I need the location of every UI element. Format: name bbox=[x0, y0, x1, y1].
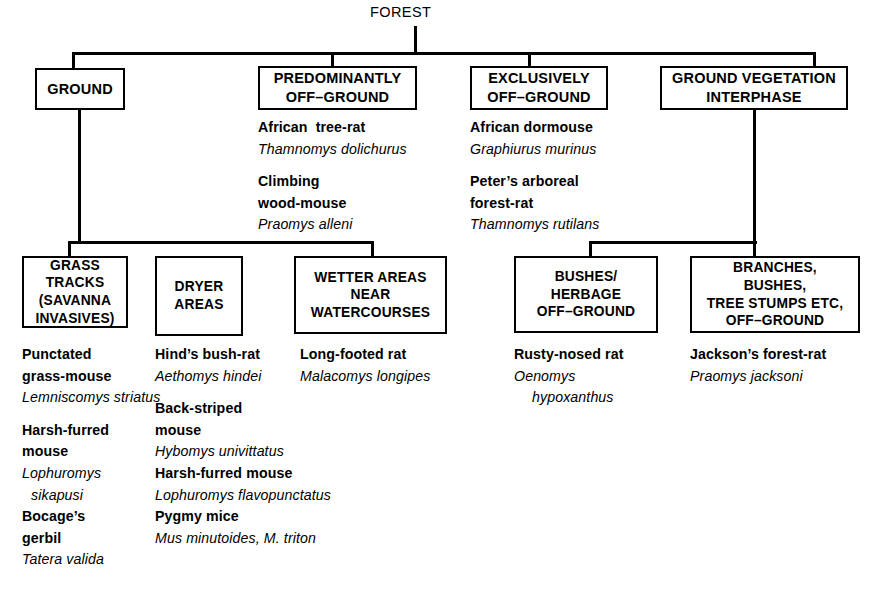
species-scientific-name: sikapusi bbox=[22, 487, 83, 503]
species-line: Jackson’s forest-rat bbox=[690, 344, 826, 366]
node-ground-label: GROUND bbox=[47, 80, 113, 99]
species-line: Punctated bbox=[22, 344, 160, 366]
species-common-name: Punctated bbox=[22, 346, 91, 362]
node-dryer-areas[interactable]: DRYER AREAS bbox=[155, 256, 243, 336]
connector-level1-drop-predominantly bbox=[331, 52, 334, 67]
species-line: Praomys alleni bbox=[258, 214, 407, 236]
species-list-exclusively-off-ground: African dormouseGraphiurus murinusPeter’… bbox=[470, 117, 600, 236]
species-scientific-name: Lophuromys flavopunctatus bbox=[155, 487, 331, 503]
species-common-name: forest-rat bbox=[470, 195, 533, 211]
species-common-name: Climbing bbox=[258, 173, 320, 189]
species-common-name: Bocage’s bbox=[22, 508, 85, 524]
species-line: Malacomys longipes bbox=[300, 366, 430, 388]
species-common-name: African tree-rat bbox=[258, 119, 365, 135]
node-wetter-areas[interactable]: WETTER AREAS NEAR WATERCOURSES bbox=[294, 256, 447, 334]
node-ground[interactable]: GROUND bbox=[35, 68, 125, 110]
species-list-spacer bbox=[155, 387, 331, 398]
node-predominantly-off-ground[interactable]: PREDOMINANTLY OFF–GROUND bbox=[258, 66, 417, 110]
species-list-branches-bushes: Jackson’s forest-ratPraomys jacksoni bbox=[690, 344, 826, 387]
species-line: Lemniscomys striatus bbox=[22, 387, 160, 409]
species-scientific-name: Lemniscomys striatus bbox=[22, 389, 160, 405]
species-common-name: Pygmy mice bbox=[155, 508, 239, 524]
species-line: Pygmy mice bbox=[155, 506, 331, 528]
species-line: wood-mouse bbox=[258, 193, 407, 215]
species-common-name: Back-striped bbox=[155, 400, 242, 416]
species-line: sikapusi bbox=[22, 485, 160, 507]
species-line: mouse bbox=[22, 441, 160, 463]
connector-interphase-drop-bushes-herbage bbox=[589, 241, 592, 257]
node-branches-bushes[interactable]: BRANCHES, BUSHES, TREE STUMPS ETC, OFF–G… bbox=[690, 256, 860, 333]
species-common-name: grass-mouse bbox=[22, 368, 111, 384]
species-common-name: wood-mouse bbox=[258, 195, 347, 211]
node-exclusively-off-ground-label: EXCLUSIVELY OFF–GROUND bbox=[487, 69, 591, 106]
species-line: Lophuromys bbox=[22, 463, 160, 485]
species-line: Climbing bbox=[258, 171, 407, 193]
node-grass-tracks-label: GRASS TRACKS (SAVANNA INVASIVES) bbox=[35, 257, 114, 328]
species-scientific-name: Thamnomys dolichurus bbox=[258, 141, 407, 157]
species-line: hypoxanthus bbox=[514, 387, 624, 409]
node-exclusively-off-ground[interactable]: EXCLUSIVELY OFF–GROUND bbox=[470, 66, 608, 110]
connector-ground-bus bbox=[68, 241, 374, 244]
species-scientific-name: hypoxanthus bbox=[514, 389, 614, 405]
species-scientific-name: Thamnomys rutilans bbox=[470, 216, 600, 232]
species-scientific-name: Graphiurus murinus bbox=[470, 141, 596, 157]
species-scientific-name: Aethomys hindei bbox=[155, 368, 261, 384]
diagram-canvas: FOREST GROUND PREDOMINANTLY OFF–GROUND E… bbox=[0, 0, 874, 596]
species-list-spacer bbox=[22, 409, 160, 420]
species-common-name: Hind’s bush-rat bbox=[155, 346, 260, 362]
species-list-spacer bbox=[258, 160, 407, 171]
species-list-spacer bbox=[470, 160, 600, 171]
species-line: Rusty-nosed rat bbox=[514, 344, 624, 366]
root-label-forest: FOREST bbox=[370, 4, 431, 20]
species-line: Thamnomys rutilans bbox=[470, 214, 600, 236]
species-scientific-name: Mus minutoides, M. triton bbox=[155, 530, 316, 546]
species-common-name: Jackson’s forest-rat bbox=[690, 346, 826, 362]
connector-level1-drop-exclusively bbox=[528, 52, 531, 67]
species-list-bushes-herbage: Rusty-nosed ratOenomyshypoxanthus bbox=[514, 344, 624, 409]
connector-ground-drop-wetter-areas bbox=[371, 241, 374, 257]
species-line: African dormouse bbox=[470, 117, 600, 139]
connector-interphase-bus bbox=[589, 241, 757, 244]
node-ground-vegetation-interphase-label: GROUND VEGETATION INTERPHASE bbox=[672, 69, 836, 106]
species-line: Thamnomys dolichurus bbox=[258, 139, 407, 161]
species-common-name: mouse bbox=[155, 422, 201, 438]
species-line: Mus minutoides, M. triton bbox=[155, 528, 331, 550]
connector-interphase-drop-branches bbox=[753, 241, 756, 257]
connector-interphase-stem bbox=[753, 110, 756, 244]
species-common-name: Harsh-furred bbox=[22, 422, 109, 438]
node-ground-vegetation-interphase[interactable]: GROUND VEGETATION INTERPHASE bbox=[660, 66, 848, 110]
species-scientific-name: Tatera valida bbox=[22, 551, 104, 567]
connector-level1-drop-interphase bbox=[813, 52, 816, 67]
species-line: Lophuromys flavopunctatus bbox=[155, 485, 331, 507]
node-dryer-areas-label: DRYER AREAS bbox=[174, 278, 223, 313]
species-list-grass-tracks: Punctatedgrass-mouseLemniscomys striatus… bbox=[22, 344, 160, 571]
species-line: Graphiurus murinus bbox=[470, 139, 600, 161]
species-common-name: gerbil bbox=[22, 530, 61, 546]
species-line: mouse bbox=[155, 420, 331, 442]
connector-ground-stem bbox=[78, 110, 81, 244]
node-grass-tracks[interactable]: GRASS TRACKS (SAVANNA INVASIVES) bbox=[22, 256, 128, 328]
species-line: Peter’s arboreal bbox=[470, 171, 600, 193]
species-common-name: Harsh-furred mouse bbox=[155, 465, 292, 481]
species-scientific-name: Malacomys longipes bbox=[300, 368, 430, 384]
connector-root-stem bbox=[414, 26, 417, 55]
node-bushes-herbage[interactable]: BUSHES/ HERBAGE OFF–GROUND bbox=[514, 256, 658, 333]
species-list-wetter-areas: Long-footed ratMalacomys longipes bbox=[300, 344, 430, 387]
species-scientific-name: Lophuromys bbox=[22, 465, 101, 481]
species-scientific-name: Oenomys bbox=[514, 368, 575, 384]
connector-level1-bus bbox=[72, 52, 816, 55]
species-line: Hybomys univittatus bbox=[155, 441, 331, 463]
node-predominantly-off-ground-label: PREDOMINANTLY OFF–GROUND bbox=[274, 69, 402, 106]
node-bushes-herbage-label: BUSHES/ HERBAGE OFF–GROUND bbox=[537, 268, 636, 321]
species-common-name: African dormouse bbox=[470, 119, 593, 135]
connector-ground-drop-grass-tracks bbox=[68, 241, 71, 257]
species-line: gerbil bbox=[22, 528, 160, 550]
node-wetter-areas-label: WETTER AREAS NEAR WATERCOURSES bbox=[311, 269, 430, 322]
species-list-predominantly-off-ground: African tree-ratThamnomys dolichurusClim… bbox=[258, 117, 407, 236]
species-line: Oenomys bbox=[514, 366, 624, 388]
species-scientific-name: Praomys alleni bbox=[258, 216, 352, 232]
species-common-name: Rusty-nosed rat bbox=[514, 346, 624, 362]
node-branches-bushes-label: BRANCHES, BUSHES, TREE STUMPS ETC, OFF–G… bbox=[707, 259, 844, 330]
species-line: Bocage’s bbox=[22, 506, 160, 528]
species-line: African tree-rat bbox=[258, 117, 407, 139]
